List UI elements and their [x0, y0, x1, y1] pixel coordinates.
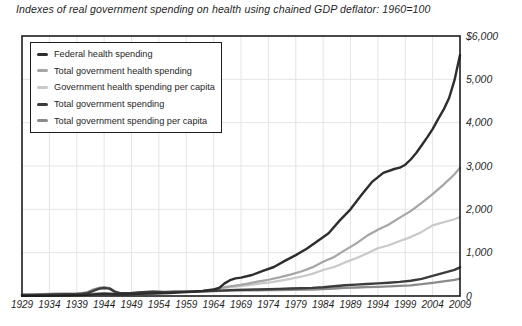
legend-swatch-total_gov_health — [37, 69, 48, 72]
legend-label: Total government spending — [54, 99, 164, 109]
y-axis-tick-label: 2,000 — [466, 203, 518, 215]
legend-swatch-total_gov — [37, 103, 48, 106]
legend-swatch-total_gov_per_capita — [37, 119, 48, 122]
y-axis-tick-label: 4,000 — [466, 116, 518, 128]
legend-item: Federal health spending — [37, 49, 219, 59]
y-axis-tick-label: $6,000 — [466, 30, 518, 42]
legend-swatch-federal_health — [37, 53, 48, 56]
legend-item: Total government health spending — [37, 66, 219, 76]
y-axis-tick-label: 1,000 — [466, 246, 518, 258]
legend-item: Total government spending per capita — [37, 116, 219, 126]
chart-figure: Indexes of real government spending on h… — [0, 0, 522, 326]
x-axis-tick-label: 2009 — [444, 299, 476, 310]
legend-label: Total government spending per capita — [54, 116, 207, 126]
legend-label: Federal health spending — [54, 49, 153, 59]
y-axis-tick-label: 3,000 — [466, 160, 518, 172]
legend-label: Total government health spending — [54, 66, 192, 76]
legend: Federal health spendingTotal government … — [30, 42, 222, 133]
legend-swatch-gov_health_per_capita — [37, 86, 48, 89]
legend-label: Government health spending per capita — [54, 82, 215, 92]
y-axis-tick-label: 5,000 — [466, 73, 518, 85]
legend-item: Total government spending — [37, 99, 219, 109]
legend-item: Government health spending per capita — [37, 82, 219, 92]
